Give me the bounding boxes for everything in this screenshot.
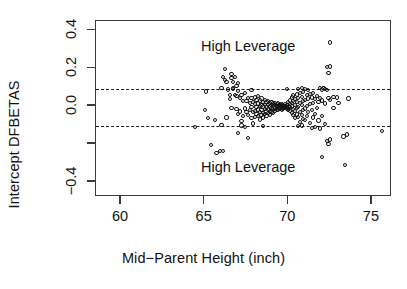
data-point (251, 121, 255, 125)
reference-line (96, 89, 390, 90)
plot-area: High LeverageHigh Leverage (95, 20, 391, 196)
y-tick-mark (87, 67, 95, 68)
data-point (343, 163, 347, 167)
data-point (229, 106, 233, 110)
data-point (193, 125, 197, 129)
x-tick-label: 60 (100, 208, 140, 224)
data-point (380, 129, 384, 133)
data-point (315, 106, 319, 110)
x-tick-label: 75 (351, 208, 391, 224)
x-axis-title: Mid−Parent Height (inch) (0, 250, 407, 266)
data-point (318, 126, 322, 130)
data-point (224, 115, 228, 119)
data-point (335, 95, 339, 99)
x-tick-mark (203, 196, 204, 204)
data-point (313, 125, 317, 129)
data-point (236, 81, 240, 85)
y-tick-label: 0.2 (54, 54, 84, 80)
y-tick-label-text: 0.2 (58, 54, 84, 80)
data-point (239, 123, 243, 127)
y-tick-label-text: 0.4 (58, 16, 84, 42)
y-tick-label-text: 0.0 (58, 92, 84, 118)
data-point (243, 91, 247, 95)
high-leverage-label: High Leverage (201, 38, 295, 54)
data-point (261, 124, 265, 128)
data-point (320, 155, 324, 159)
data-point (323, 101, 327, 105)
x-tick-mark (287, 196, 288, 204)
data-point (223, 67, 227, 71)
data-point (321, 86, 325, 90)
y-tick-label: 0.0 (54, 92, 84, 118)
high-leverage-label: High Leverage (201, 159, 295, 175)
data-point (228, 93, 232, 97)
data-point (305, 114, 309, 118)
data-point (326, 142, 330, 146)
data-point (311, 101, 315, 105)
y-tick-label: 0.4 (54, 16, 84, 42)
data-point (311, 115, 315, 119)
data-point (328, 40, 332, 44)
y-tick-label-text: −0.4 (58, 168, 84, 194)
y-tick-mark (87, 29, 95, 30)
data-point (331, 106, 335, 110)
data-point (303, 118, 307, 122)
data-point (300, 86, 304, 90)
data-point (246, 136, 250, 140)
data-point (296, 124, 300, 128)
data-point (219, 123, 223, 127)
y-tick-mark (87, 104, 95, 105)
data-point (224, 80, 228, 84)
data-point (328, 64, 332, 68)
data-point (213, 118, 217, 122)
y-tick-label: −0.4 (54, 168, 84, 194)
x-tick-label: 70 (267, 208, 307, 224)
data-point (249, 88, 253, 92)
data-point (316, 118, 320, 122)
data-point (231, 87, 235, 91)
data-point (226, 87, 230, 91)
data-point (326, 71, 330, 75)
x-tick-mark (119, 196, 120, 204)
scatter-plot-figure: Intercept DFBETAS Mid−Parent Height (inc… (0, 0, 407, 289)
x-tick-label: 65 (184, 208, 224, 224)
y-tick-mark (87, 142, 95, 143)
data-point (308, 121, 312, 125)
data-point (336, 101, 340, 105)
y-tick-mark (87, 180, 95, 181)
data-point (209, 143, 213, 147)
data-point (241, 114, 245, 118)
data-point (345, 132, 349, 136)
data-point (300, 123, 304, 127)
data-point (234, 94, 238, 98)
data-point (233, 75, 237, 79)
data-point (204, 89, 208, 93)
data-point (236, 131, 240, 135)
data-point (238, 109, 242, 113)
data-point (313, 112, 317, 116)
data-point (221, 149, 225, 153)
data-point (285, 87, 289, 91)
data-point (320, 114, 324, 118)
data-point (346, 96, 350, 100)
data-point (203, 108, 207, 112)
data-point (228, 97, 232, 101)
data-point (206, 116, 210, 120)
x-tick-mark (370, 196, 371, 204)
y-axis-title: Intercept DFBETAS (0, 0, 28, 289)
data-point (328, 137, 332, 141)
